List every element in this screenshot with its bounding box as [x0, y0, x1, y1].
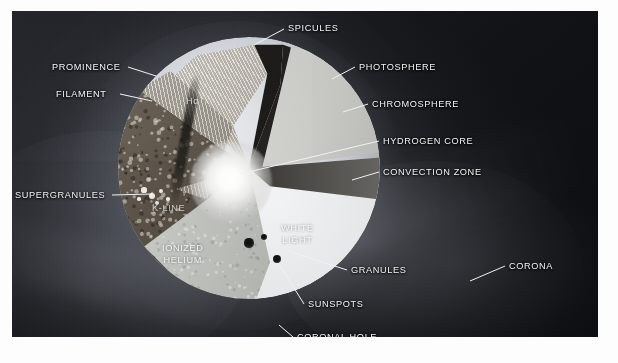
callout-label-corona: CORONA: [509, 261, 553, 271]
photo-plate: SPICULESPHOTOSPHERECHROMOSPHEREHYDROGEN …: [12, 11, 598, 337]
callout-label-prominence: PROMINENCE: [52, 62, 120, 72]
figure-root: SPICULESPHOTOSPHERECHROMOSPHEREHYDROGEN …: [0, 0, 618, 363]
inner-label-k-line: K-LINE: [152, 203, 185, 215]
hydrogen-core-glow: [190, 141, 272, 223]
supergranule-dot: [166, 197, 170, 201]
supergranule-dot: [137, 197, 140, 200]
callout-label-coronal-hole: CORONAL HOLE: [297, 332, 377, 337]
supergranule-dot: [141, 187, 146, 192]
callout-label-convection-zone: CONVECTION ZONE: [383, 167, 482, 177]
callout-label-chromosphere: CHROMOSPHERE: [372, 99, 459, 109]
callout-label-spicules: SPICULES: [288, 23, 338, 33]
callout-label-hydrogen-core: HYDROGEN CORE: [383, 136, 473, 146]
callout-label-filament: FILAMENT: [56, 89, 106, 99]
leader-line-coronal-hole: [279, 325, 293, 337]
leader-line-corona: [470, 266, 505, 281]
sun-sphere: [118, 37, 380, 299]
callout-label-sunspots: SUNSPOTS: [308, 299, 364, 309]
inner-label-ionized-helium: IONIZEDHELIUM: [162, 243, 204, 266]
sunspot: [244, 238, 253, 247]
callout-label-supergranules: SUPERGRANULES: [15, 190, 105, 200]
inner-label-white-light: WHITELIGHT: [281, 223, 314, 246]
inner-label-h-alpha: Hα: [186, 96, 199, 108]
callout-label-granules: GRANULES: [351, 265, 407, 275]
sunspot: [273, 255, 281, 263]
callout-label-photosphere: PHOTOSPHERE: [359, 62, 436, 72]
